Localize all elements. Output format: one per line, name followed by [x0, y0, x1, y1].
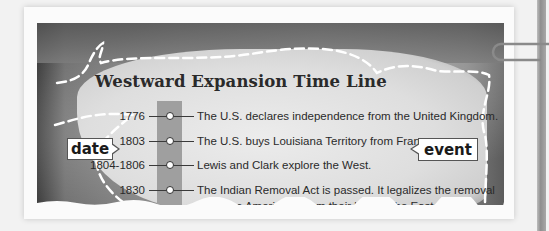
timeline-row: 1776 The U.S. declares independence from…	[37, 108, 504, 124]
paperclip-icon	[489, 41, 549, 67]
timeline-event: The U.S. buys Louisiana Territory from F…	[197, 133, 435, 149]
timeline-panel: Westward Expansion Time Line 1776 The U.…	[37, 23, 504, 205]
date-callout-label: date	[71, 140, 109, 158]
timeline-dot-icon	[166, 137, 174, 145]
timeline-event: Lewis and Clark explore the West.	[197, 157, 371, 173]
timeline-dot-icon	[166, 161, 174, 169]
page-title: Westward Expansion Time Line	[95, 72, 387, 91]
timeline-date: 1803	[119, 133, 145, 149]
timeline-event: The Indian Removal Act is passed. It leg…	[197, 182, 495, 198]
timeline-date: 1776	[119, 108, 145, 124]
timeline-dot-icon	[166, 186, 174, 194]
event-callout: event	[418, 138, 478, 161]
date-callout: date	[67, 138, 113, 160]
torn-paper-edge	[37, 197, 504, 205]
timeline-dot-icon	[166, 112, 174, 120]
textbook-page: Westward Expansion Time Line 1776 The U.…	[24, 7, 514, 219]
timeline-date: 1830	[119, 182, 145, 198]
page-edge-rail	[537, 0, 546, 231]
timeline-event: The U.S. declares independence from the …	[197, 108, 498, 124]
event-callout-label: event	[424, 141, 472, 159]
